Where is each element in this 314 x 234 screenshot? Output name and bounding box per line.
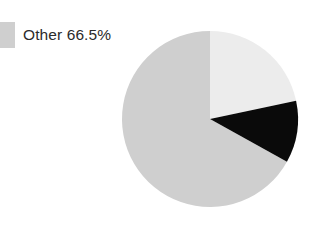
pie-chart-figure: Other 66.5% (0, 0, 314, 234)
chart-legend: Other 66.5% (0, 22, 111, 48)
pie-slice-group (122, 31, 298, 207)
legend-label-other: Other 66.5% (23, 22, 111, 48)
legend-swatch-other (0, 22, 15, 48)
